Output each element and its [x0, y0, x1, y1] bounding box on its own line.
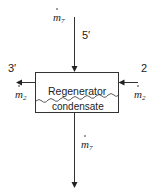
mass-flow-dots	[0, 0, 157, 195]
